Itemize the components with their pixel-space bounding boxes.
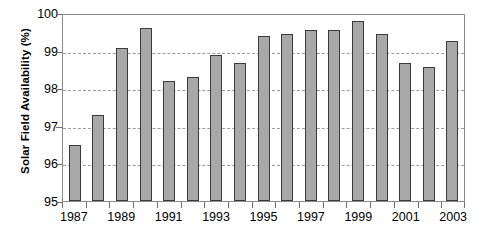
plot-area — [62, 14, 465, 202]
y-axis-tick-label: 99 — [18, 45, 58, 59]
x-axis-tick-mark — [275, 202, 276, 208]
bar-2001[interactable] — [399, 63, 411, 201]
bar-slot — [441, 15, 465, 201]
x-axis-tick-mark — [323, 202, 324, 208]
bar-1992[interactable] — [187, 77, 199, 201]
x-axis-tick-mark — [133, 202, 134, 208]
bars-container — [63, 15, 464, 201]
x-axis-tick-mark — [418, 202, 419, 208]
y-axis-tick-label: 96 — [18, 157, 58, 171]
bar-slot — [323, 15, 347, 201]
x-axis-tick-mark — [62, 202, 63, 208]
bar-2002[interactable] — [423, 67, 435, 201]
bar-2003[interactable] — [446, 41, 458, 201]
x-axis-tick-mark — [346, 202, 347, 208]
bar-1994[interactable] — [234, 63, 246, 201]
x-axis-tick-mark — [394, 202, 395, 208]
y-axis-tick-label: 98 — [18, 82, 58, 96]
bar-slot — [87, 15, 111, 201]
bar-1993[interactable] — [210, 55, 222, 201]
bar-slot — [417, 15, 441, 201]
bar-slot — [181, 15, 205, 201]
bar-slot — [346, 15, 370, 201]
bar-slot — [157, 15, 181, 201]
bar-1988[interactable] — [92, 115, 104, 201]
x-axis-tick-mark — [157, 202, 158, 208]
bar-1989[interactable] — [116, 48, 128, 201]
x-axis-tick-mark — [299, 202, 300, 208]
bar-slot — [110, 15, 134, 201]
bar-1996[interactable] — [281, 34, 293, 201]
y-axis-tick-label: 95 — [18, 195, 58, 209]
bar-1998[interactable] — [328, 30, 340, 201]
bar-1990[interactable] — [140, 28, 152, 201]
x-axis-tick-mark — [228, 202, 229, 208]
bar-slot — [205, 15, 229, 201]
bar-1991[interactable] — [163, 81, 175, 201]
x-axis-tick-label: 2003 — [423, 210, 477, 224]
bar-slot — [393, 15, 417, 201]
bar-slot — [299, 15, 323, 201]
bar-1987[interactable] — [69, 145, 81, 201]
bar-slot — [228, 15, 252, 201]
plot-inner — [63, 15, 464, 201]
x-axis-tick-mark — [204, 202, 205, 208]
bar-slot — [275, 15, 299, 201]
x-axis-tick-marks — [62, 202, 465, 208]
bar-slot — [134, 15, 158, 201]
solar-field-availability-bar-chart: Solar Field Availability (%) 95969798991… — [0, 0, 477, 244]
y-axis-tick-label: 100 — [18, 7, 58, 21]
bar-slot — [370, 15, 394, 201]
x-axis-tick-labels: 198719891991199319951997199920012003 — [62, 210, 465, 234]
x-axis-tick-mark — [370, 202, 371, 208]
bar-1997[interactable] — [305, 30, 317, 201]
y-axis-tick-label: 97 — [18, 120, 58, 134]
x-axis-tick-mark — [86, 202, 87, 208]
x-axis-tick-mark — [109, 202, 110, 208]
x-axis-tick-mark — [181, 202, 182, 208]
x-axis-tick-mark — [464, 202, 465, 208]
x-axis-tick-mark — [441, 202, 442, 208]
bar-1995[interactable] — [258, 36, 270, 201]
bar-1999[interactable] — [352, 21, 364, 201]
bar-slot — [63, 15, 87, 201]
bar-slot — [252, 15, 276, 201]
x-axis-tick-mark — [252, 202, 253, 208]
bar-2000[interactable] — [376, 34, 388, 201]
